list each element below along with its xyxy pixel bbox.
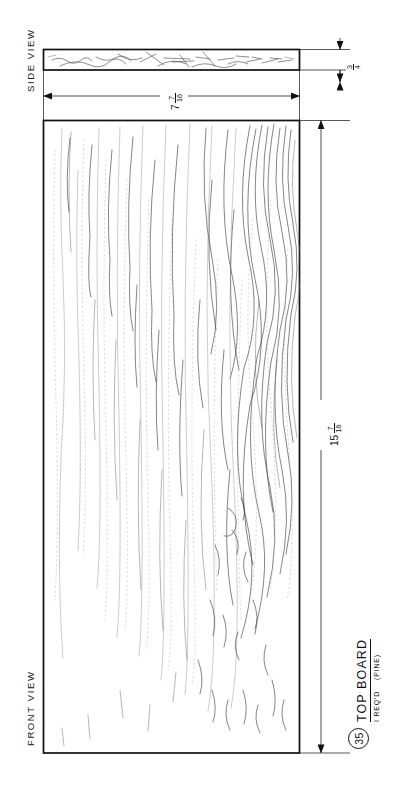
part-notes: I REQ'D (PINE) — [373, 639, 380, 722]
dimension-length-text: 15 7 16 — [327, 421, 343, 448]
drawing-linework — [0, 0, 410, 802]
quantity-note: I REQ'D — [373, 691, 380, 722]
part-number-text: 35 — [353, 732, 365, 744]
material-note: (PINE) — [373, 654, 380, 680]
drawing-sheet: SIDE VIEW FRONT VIEW 3 4 7 7 16 15 7 16 … — [0, 0, 410, 802]
dimension-width-whole: 7 — [170, 104, 181, 110]
fraction-seven-sixteenths-2: 7 16 — [327, 423, 343, 433]
dimension-length-whole: 15 — [329, 435, 340, 446]
part-title: TOP BOARD — [355, 639, 371, 722]
dimension-width-text: 7 7 16 — [168, 91, 184, 112]
title-block: TOP BOARD I REQ'D (PINE) — [352, 639, 380, 722]
dimension-thickness — [300, 38, 350, 82]
part-number-balloon: 35 — [348, 728, 369, 749]
front-view-label: FRONT VIEW — [26, 671, 36, 746]
fraction-three-quarters: 3 4 — [346, 64, 362, 70]
fraction-seven-sixteenths: 7 16 — [168, 93, 184, 103]
side-view-grain — [48, 52, 294, 68]
side-view-label: SIDE VIEW — [26, 29, 36, 93]
dimension-thickness-text: 3 4 — [346, 62, 362, 72]
side-view-board-outline — [44, 50, 300, 71]
front-view-board-outline — [44, 121, 300, 754]
front-view-wood-grain — [54, 124, 301, 746]
